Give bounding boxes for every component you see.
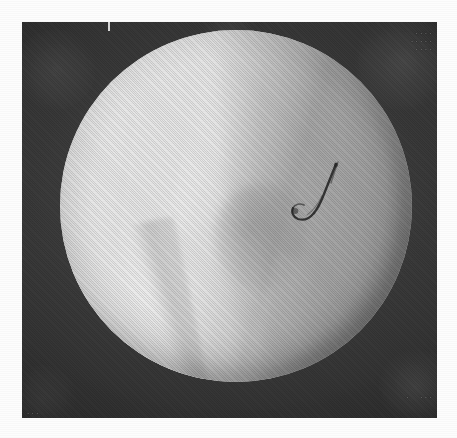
radiograph-page: .... ..... .... . ... ... [0, 0, 457, 438]
calibration-tick-icon [108, 22, 110, 31]
annotation-top-right: .... ..... .... [410, 28, 433, 52]
circular-field-of-view [60, 30, 412, 382]
annotation-bottom-right: . ... [405, 392, 433, 400]
intensifier-rim [60, 30, 412, 382]
radiograph-plate: .... ..... .... . ... ... [22, 22, 437, 418]
annotation-bottom-left: ... [26, 408, 40, 416]
